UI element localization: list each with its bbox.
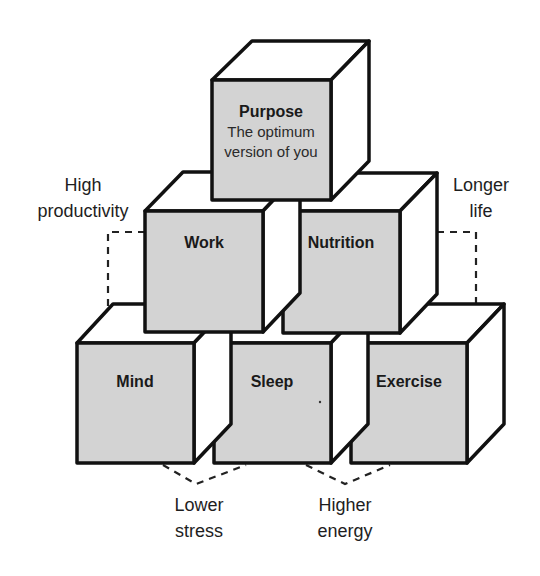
outcome-high-productivity: High productivity — [37, 175, 128, 221]
connector-lower-stress — [163, 465, 246, 484]
wellbeing-cube-pyramid-diagram: Exercise Sleep Mind Nutrition Work Purpo… — [0, 0, 540, 576]
outcome-longer-life: Longer life — [453, 175, 509, 221]
cube-sleep-label: Sleep — [251, 373, 294, 390]
connector-high-productivity — [108, 232, 145, 306]
outcome-lower-stress-line2: stress — [175, 521, 223, 541]
cube-mind-label: Mind — [116, 373, 153, 390]
cube-purpose-subtitle-line1: The optimum — [227, 123, 315, 140]
connector-higher-energy — [306, 465, 390, 484]
outcome-high-productivity-line2: productivity — [37, 201, 128, 221]
outcome-higher-energy: Higher energy — [317, 495, 372, 541]
outcome-lower-stress-line1: Lower — [174, 495, 223, 515]
cube-purpose-subtitle-line2: version of you — [224, 143, 317, 160]
cube-work-label: Work — [184, 234, 224, 251]
cube-purpose-title: Purpose — [239, 103, 303, 120]
cube-purpose: Purpose The optimum version of you — [212, 41, 369, 200]
outcome-higher-energy-line2: energy — [317, 521, 372, 541]
cube-exercise-label: Exercise — [376, 373, 442, 390]
connector-longer-life — [437, 232, 476, 306]
cube-nutrition-label: Nutrition — [308, 234, 375, 251]
outcome-longer-life-line2: life — [469, 201, 492, 221]
speck-mark — [319, 401, 321, 403]
outcome-higher-energy-line1: Higher — [318, 495, 371, 515]
outcome-lower-stress: Lower stress — [174, 495, 223, 541]
outcome-longer-life-line1: Longer — [453, 175, 509, 195]
outcome-high-productivity-line1: High — [64, 175, 101, 195]
